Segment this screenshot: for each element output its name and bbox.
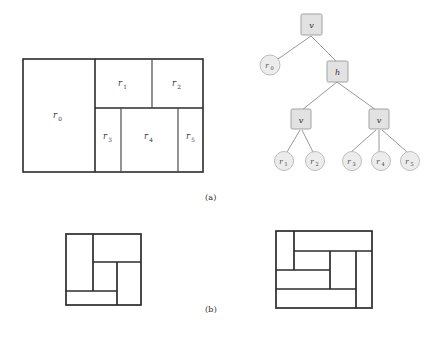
tree-leaf-r2[interactable]: r 2 bbox=[306, 152, 325, 171]
tree-leaf-r2-sub: 2 bbox=[315, 161, 318, 167]
room-label-r4-sub: 4 bbox=[149, 137, 153, 143]
figure-container: r 0 r 1 r 2 r 3 r 4 r 5 bbox=[0, 0, 430, 340]
tree-leaf-r3-sub: 3 bbox=[352, 161, 355, 167]
tree-node-v-left[interactable]: v bbox=[291, 109, 311, 129]
tree-node-h[interactable]: h bbox=[327, 61, 348, 82]
slicing-floorplan: r 0 r 1 r 2 r 3 r 4 r 5 bbox=[23, 59, 203, 172]
floorplan-variant-right bbox=[276, 231, 372, 308]
tree-leaf-r4-sub: 4 bbox=[381, 161, 384, 167]
tree-edge-h-vright bbox=[337, 82, 376, 110]
room-label-r0-sub: 0 bbox=[58, 116, 62, 122]
tree-leaf-r1-sub: 1 bbox=[284, 161, 287, 167]
tree-leaf-r5[interactable]: r 5 bbox=[401, 152, 420, 171]
figure-canvas: r 0 r 1 r 2 r 3 r 4 r 5 bbox=[0, 0, 430, 340]
tree-node-v-left-label: v bbox=[299, 116, 304, 125]
tree-leaf-r1[interactable]: r 1 bbox=[275, 152, 294, 171]
tree-edge-root-r0 bbox=[278, 36, 311, 59]
tree-node-v-right[interactable]: v bbox=[369, 109, 389, 129]
tree-leaf-r0[interactable]: r 0 bbox=[260, 55, 280, 75]
tree-edges bbox=[278, 36, 407, 152]
tree-node-v-right-label: v bbox=[377, 116, 382, 125]
room-label-r5-sub: 5 bbox=[191, 137, 195, 143]
tree-edge-vright-r3 bbox=[351, 130, 376, 152]
tree-leaf-r3[interactable]: r 3 bbox=[343, 152, 362, 171]
floorplan-frame bbox=[23, 59, 203, 172]
floorplan-variant-left bbox=[66, 234, 141, 305]
caption-a: (a) bbox=[205, 193, 217, 202]
tree-leaf-r0-sub: 0 bbox=[270, 65, 273, 71]
floorplan-variant-left-frame bbox=[66, 234, 141, 305]
room-label-r2-sub: 2 bbox=[177, 84, 181, 90]
room-label-r1-sub: 1 bbox=[123, 84, 127, 90]
tree-leaf-r4[interactable]: r 4 bbox=[372, 152, 391, 171]
tree-edge-vleft-r1 bbox=[287, 130, 300, 152]
caption-b: (b) bbox=[205, 305, 217, 314]
tree-edge-vright-r5 bbox=[382, 130, 407, 152]
tree-edge-h-vleft bbox=[302, 82, 337, 110]
tree-edge-root-h bbox=[311, 36, 337, 62]
tree-node-root-v-label: v bbox=[309, 21, 314, 30]
tree-edge-vleft-r2 bbox=[302, 130, 313, 152]
room-label-r3-sub: 3 bbox=[108, 137, 112, 143]
slicing-tree: v r 0 h v v bbox=[260, 14, 420, 171]
tree-leaf-r5-sub: 5 bbox=[410, 161, 413, 167]
tree-node-h-label: h bbox=[335, 68, 340, 77]
tree-node-root-v[interactable]: v bbox=[301, 14, 322, 35]
